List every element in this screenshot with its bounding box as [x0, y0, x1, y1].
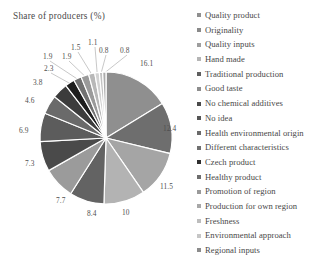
- pie-data-label: 16.1: [140, 59, 153, 68]
- legend-swatch-icon: [197, 102, 201, 106]
- legend-swatch-icon: [197, 28, 201, 32]
- legend-swatch-icon: [197, 116, 201, 120]
- legend-item-label: Traditional production: [205, 67, 283, 82]
- legend-item-label: Regional inputs: [205, 243, 260, 258]
- legend-swatch-icon: [197, 190, 201, 194]
- legend-swatch-icon: [197, 131, 201, 135]
- legend-item-label: No chemical additives: [205, 96, 283, 111]
- legend-item[interactable]: Different characteristics: [197, 140, 331, 155]
- legend-item-label: Freshness: [205, 214, 239, 229]
- legend-item-label: No idea: [205, 111, 232, 126]
- pie-data-label: 3.8: [33, 78, 43, 87]
- pie-data-label: 6.9: [19, 126, 29, 135]
- legend-swatch-icon: [197, 160, 201, 164]
- legend-item-label: Originality: [205, 23, 243, 38]
- legend-item[interactable]: No idea: [197, 111, 331, 126]
- legend-item-label: Healthy product: [205, 170, 261, 185]
- pie-data-label: 2.3: [44, 64, 54, 73]
- pie-data-label: 0.8: [99, 46, 109, 55]
- legend-item-label: Good taste: [205, 81, 243, 96]
- legend-item[interactable]: Environmental approach: [197, 228, 331, 243]
- legend-item-label: Production for own region: [205, 199, 297, 214]
- legend-item[interactable]: Quality product: [197, 8, 331, 23]
- legend-item-label: Different characteristics: [205, 140, 289, 155]
- legend-item-label: Czech product: [205, 155, 256, 170]
- leader-line: [104, 55, 127, 73]
- pie-slices-group: [40, 72, 172, 204]
- pie-data-label: 7.7: [56, 196, 66, 205]
- leader-line: [50, 61, 78, 79]
- legend-item[interactable]: Originality: [197, 23, 331, 38]
- legend-item[interactable]: Freshness: [197, 214, 331, 229]
- legend-item-label: Quality inputs: [205, 37, 255, 52]
- pie-data-label: 1.9: [62, 52, 72, 61]
- leader-line: [69, 61, 85, 76]
- leader-line: [51, 73, 70, 84]
- legend-item-label: Quality product: [205, 8, 260, 23]
- legend-item[interactable]: Promotion of region: [197, 184, 331, 199]
- legend-item[interactable]: Regional inputs: [197, 243, 331, 258]
- legend-swatch-icon: [197, 175, 201, 179]
- legend-item[interactable]: Healthy product: [197, 170, 331, 185]
- pie-data-label: 8.4: [87, 209, 97, 218]
- legend-item-label: Promotion of region: [205, 184, 276, 199]
- legend-swatch-icon: [197, 219, 201, 223]
- leader-line: [95, 47, 97, 74]
- pie-data-label: 10: [122, 208, 130, 217]
- legend-item[interactable]: Good taste: [197, 81, 331, 96]
- legend-item-label: Environmental approach: [205, 228, 291, 243]
- legend-item[interactable]: Quality inputs: [197, 37, 331, 52]
- legend-item[interactable]: No chemical additives: [197, 96, 331, 111]
- legend-swatch-icon: [197, 204, 201, 208]
- legend-swatch-icon: [197, 248, 201, 252]
- legend-item[interactable]: Production for own region: [197, 199, 331, 214]
- pie-data-label: 1.5: [71, 43, 81, 52]
- legend-item[interactable]: Health environmental origin: [197, 126, 331, 141]
- leader-line: [101, 55, 106, 73]
- legend-swatch-icon: [197, 13, 201, 17]
- pie-data-label: 1.9: [43, 52, 53, 61]
- legend-swatch-icon: [197, 87, 201, 91]
- legend-item-label: Health environmental origin: [205, 126, 304, 141]
- pie-data-label: 1.1: [88, 38, 98, 47]
- legend-item-label: Hand made: [205, 52, 245, 67]
- legend-swatch-icon: [197, 57, 201, 61]
- legend-swatch-icon: [197, 43, 201, 47]
- legend-item[interactable]: Hand made: [197, 52, 331, 67]
- pie-plot-area: 16.112.411.5108.47.77.36.94.63.82.31.91.…: [0, 0, 196, 253]
- legend-item[interactable]: Traditional production: [197, 67, 331, 82]
- pie-data-label: 12.4: [163, 124, 176, 133]
- pie-data-label: 0.8: [120, 46, 130, 55]
- legend-swatch-icon: [197, 72, 201, 76]
- legend-swatch-icon: [197, 234, 201, 238]
- chart-legend: Quality productOriginalityQuality inputs…: [197, 8, 331, 258]
- pie-data-label: 4.6: [25, 96, 35, 105]
- pie-data-label: 11.5: [160, 182, 173, 191]
- legend-swatch-icon: [197, 146, 201, 150]
- legend-item[interactable]: Czech product: [197, 155, 331, 170]
- pie-data-label: 7.3: [25, 159, 35, 168]
